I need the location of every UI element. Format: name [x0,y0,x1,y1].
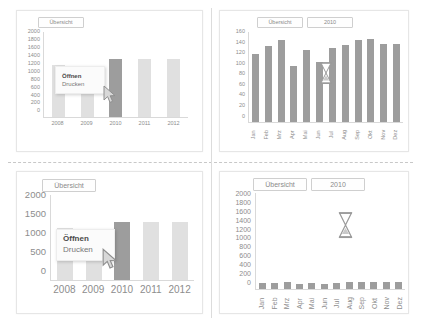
panel-chart-years-large: Übersicht 2000 1500 1000 500 0 [0,163,211,326]
arrow-cursor [102,248,118,270]
x-tick: Dez [395,298,402,310]
y-tick: 1200 [235,225,251,232]
button-year-2010[interactable]: 2010 [307,17,353,28]
bar-jul[interactable] [329,48,336,122]
y-tick: 1400 [235,216,251,223]
bar-series [256,193,405,289]
toolbar-top-left: Übersicht [38,17,84,28]
y-tick: 0 [247,278,251,285]
y-tick: 600 [31,85,40,91]
x-tick: Mrz [283,298,290,310]
x-tick: 2012 [166,285,194,295]
bar-dez[interactable] [395,282,402,289]
bar-apr[interactable] [290,66,297,122]
x-tick: Sep [358,298,365,310]
x-tick: Mai [308,298,315,310]
y-tick: 1800 [28,37,40,43]
bar-jun[interactable] [321,284,328,289]
y-tick: 1600 [235,207,251,214]
y-tick: 1500 [25,209,46,219]
y-tick: 0 [242,114,245,120]
button-uebersicht[interactable]: Übersicht [38,17,84,28]
x-tick: 2011 [137,285,165,295]
button-uebersicht[interactable]: Übersicht [257,17,303,28]
x-tick: 2011 [132,121,158,127]
x-tick: Nov [383,298,390,310]
y-tick: 200 [31,101,40,107]
y-tick: 1600 [28,45,40,51]
bar-mrz[interactable] [278,40,285,122]
x-tick: 2009 [79,285,107,295]
y-axis-labels: 2000 1800 1600 1400 1200 1000 800 600 40… [22,32,40,117]
y-tick: 1200 [28,61,40,67]
y-tick: 200 [239,270,251,277]
button-uebersicht[interactable]: Übersicht [253,178,307,191]
bar-dez[interactable] [393,44,400,122]
toolbar-bottom-right: Übersicht 2010 [253,178,365,191]
y-tick: 2000 [28,29,40,35]
x-tick: Dez [394,129,400,141]
x-tick: Jun [320,298,327,310]
x-tick: Sep [355,129,361,141]
bar-jul[interactable] [333,283,340,289]
arrow-cursor [103,85,117,104]
bar-okt[interactable] [367,39,374,122]
x-tick: 2008 [45,121,71,127]
y-tick: 40 [239,93,245,99]
button-uebersicht[interactable]: Übersicht [42,179,96,192]
y-tick: 0 [37,109,40,115]
x-axis-labels: Jan Feb Mrz Apr Mai Jun Jul Aug Sep Okt … [248,125,403,147]
context-menu-item-drucken[interactable]: Drucken [56,80,104,88]
bar-2012[interactable] [167,59,180,117]
x-tick: Jul [333,298,340,310]
x-tick: 2012 [161,121,187,127]
y-tick: 1400 [28,53,40,59]
x-axis-labels: 2008 2009 2010 2011 2012 [50,285,194,295]
y-tick: 1800 [235,198,251,205]
bar-sep[interactable] [358,282,365,289]
bar-feb[interactable] [265,46,272,122]
bar-2011[interactable] [143,222,159,280]
panel-chart-years-small: Übersicht 2000 1800 1600 1400 1200 1000 … [0,0,211,162]
bar-apr[interactable] [296,284,303,289]
bar-mai[interactable] [303,50,310,122]
x-tick: Mai [303,129,309,141]
x-tick: Jan [252,129,258,141]
bar-jan[interactable] [259,283,266,289]
y-tick: 400 [239,261,251,268]
bar-mai[interactable] [308,283,315,289]
y-tick: 140 [236,40,245,46]
bar-aug[interactable] [342,45,349,122]
y-axis-labels: 2000 1800 1600 1400 1200 1000 800 600 40… [225,193,251,289]
y-tick: 160 [236,29,245,35]
x-tick: Nov [381,129,387,141]
bar-mrz[interactable] [284,282,291,289]
button-year-2010[interactable]: 2010 [311,178,365,191]
bar-sep[interactable] [355,40,362,122]
x-tick: Aug [345,298,352,310]
x-tick: Okt [370,298,377,310]
context-menu-item-oeffnen[interactable]: Öffnen [57,234,114,245]
screenshot-canvas: Übersicht 2000 1800 1600 1400 1200 1000 … [0,0,421,326]
x-tick: Apr [295,298,302,310]
bar-2011[interactable] [138,59,151,117]
bar-nov[interactable] [383,282,390,289]
bar-feb[interactable] [271,283,278,289]
y-tick: 100 [236,61,245,67]
y-tick: 80 [239,72,245,78]
bar-okt[interactable] [370,282,377,289]
y-tick: 0 [41,266,46,276]
context-menu[interactable]: Öffnen Drucken [55,66,105,94]
x-tick: Apr [290,129,296,141]
context-menu-item-oeffnen[interactable]: Öffnen [56,72,104,80]
y-tick: 20 [239,103,245,109]
x-tick: 2010 [108,285,136,295]
bar-jan[interactable] [252,54,259,122]
bar-aug[interactable] [346,282,353,289]
x-tick: Feb [265,129,271,141]
bar-nov[interactable] [380,44,387,122]
plot-area: 2000 1800 1600 1400 1200 1000 800 600 40… [225,193,411,318]
bar-2012[interactable] [172,222,188,280]
x-tick: Okt [368,129,374,141]
y-tick: 1000 [235,234,251,241]
